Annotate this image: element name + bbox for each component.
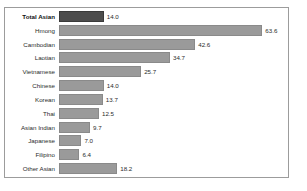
bar-track: 14.0 [59,80,286,91]
value-label: 25.7 [141,66,156,77]
value-label: 18.2 [117,163,132,174]
bar [59,11,104,22]
value-label: 9.7 [90,122,102,133]
value-label: 6.4 [79,149,91,160]
category-label: Chinese [5,80,59,91]
category-label: Asian Indian [5,122,59,133]
bar [59,163,117,174]
bar [59,135,81,146]
bar [59,25,262,36]
bar-track: 7.0 [59,135,286,146]
value-label: 14.0 [104,11,119,22]
bar [59,122,90,133]
bar-chart: Total Asian 14.0 Hmong 63.6 Cambodian 42… [0,0,307,191]
bar-track: 25.7 [59,66,286,77]
value-label: 34.7 [170,52,185,63]
bar [59,52,170,63]
category-label: Cambodian [5,39,59,50]
bar-track: 34.7 [59,52,286,63]
bar-row: Japanese 7.0 [5,135,288,146]
plot-area: Total Asian 14.0 Hmong 63.6 Cambodian 42… [4,7,289,178]
bar-row: Vietnamese 25.7 [5,66,288,77]
bar-row: Hmong 63.6 [5,25,288,36]
bar-track: 9.7 [59,122,286,133]
value-label: 12.5 [99,108,114,119]
value-label: 13.7 [103,94,118,105]
value-label: 14.0 [104,80,119,91]
category-label: Filipino [5,149,59,160]
bar-track: 14.0 [59,11,286,22]
bar-track: 12.5 [59,108,286,119]
category-label: Japanese [5,135,59,146]
value-label: 63.6 [262,25,277,36]
bar-track: 6.4 [59,149,286,160]
bar-track: 13.7 [59,94,286,105]
category-label: Vietnamese [5,66,59,77]
value-label: 42.6 [195,39,210,50]
bar [59,149,79,160]
bar-row: Laotian 34.7 [5,52,288,63]
bar [59,80,104,91]
category-label: Thai [5,108,59,119]
category-label: Total Asian [5,11,59,22]
bar-track: 42.6 [59,39,286,50]
bar [59,39,195,50]
category-label: Laotian [5,52,59,63]
bar-row: Other Asian 18.2 [5,163,288,174]
bar-rows: Total Asian 14.0 Hmong 63.6 Cambodian 42… [5,8,288,177]
value-label: 7.0 [81,135,93,146]
bar-row: Thai 12.5 [5,108,288,119]
bar-track: 63.6 [59,25,286,36]
bar-row: Asian Indian 9.7 [5,122,288,133]
bar-row: Cambodian 42.6 [5,39,288,50]
category-label: Hmong [5,25,59,36]
bar-row: Chinese 14.0 [5,80,288,91]
bar [59,66,141,77]
category-label: Other Asian [5,163,59,174]
bar-track: 18.2 [59,163,286,174]
bar-row: Total Asian 14.0 [5,11,288,22]
category-label: Korean [5,94,59,105]
bar-row: Korean 13.7 [5,94,288,105]
bar-row: Filipino 6.4 [5,149,288,160]
bar [59,108,99,119]
bar [59,94,103,105]
